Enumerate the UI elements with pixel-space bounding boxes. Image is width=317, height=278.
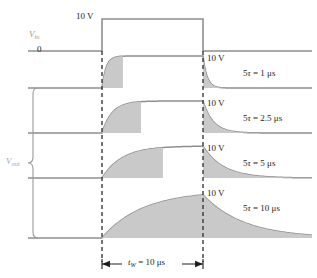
output-amplitude-label-tau5: 10 V <box>207 144 225 153</box>
arrow-right-icon <box>195 261 203 267</box>
time-constant-label-tau5: 5τ = 5 μs <box>243 159 275 168</box>
time-constant-label-tau1: 5τ = 1 μs <box>243 69 275 78</box>
output-fill-rise-tau2.5 <box>102 102 141 133</box>
output-fill-rise-tau5 <box>102 148 163 178</box>
output-fill-decay-tau10 <box>203 195 312 238</box>
waveform-canvas <box>0 0 317 278</box>
arrow-left-icon <box>102 261 110 267</box>
output-group-brace <box>28 88 38 238</box>
input-signal-label: Vin <box>29 30 40 40</box>
pulse-response-figure: 10 V Vin 0 Vout 10 V5τ = 1 μs10 V5τ = 2.… <box>0 0 317 278</box>
input-amplitude-label: 10 V <box>76 12 94 21</box>
output-amplitude-label-tau10: 10 V <box>207 189 225 198</box>
time-constant-label-tau10: 5τ = 10 μs <box>243 204 280 213</box>
input-waveform <box>28 19 312 51</box>
time-constant-label-tau2.5: 5τ = 2.5 μs <box>243 114 282 123</box>
output-group-label: Vout <box>6 157 20 167</box>
input-zero-label: 0 <box>37 45 42 54</box>
pulse-width-label: tW = 10 μs <box>128 258 165 268</box>
output-fill-rise-tau10 <box>102 195 203 238</box>
output-fill-rise-tau1 <box>102 56 123 88</box>
output-amplitude-label-tau2.5: 10 V <box>207 99 225 108</box>
output-amplitude-label-tau1: 10 V <box>207 54 225 63</box>
